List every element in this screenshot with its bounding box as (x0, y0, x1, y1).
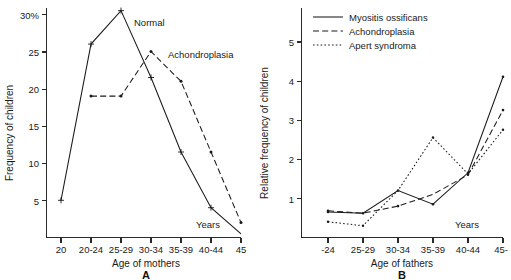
panel-a-xtick-2: 25-29 (109, 244, 133, 255)
panel-b-ytick-3: 3 (289, 115, 294, 126)
two-panel-line-chart: Frequency of children 30% 25 20 15 10 5 (0, 0, 511, 280)
panel-a-series-achondroplasia-markers (90, 50, 243, 224)
panel-b-y-tick-labels: 5 4 3 2 1 (289, 37, 294, 205)
legend-label-achondroplasia: Achondroplasia (349, 26, 415, 37)
panel-a-label: A (142, 269, 150, 280)
panel-b-series-achondroplasia-markers (327, 109, 505, 212)
panel-b-xtick-2: 30-34 (386, 244, 410, 255)
panel-a-ytick-20: 20 (28, 84, 39, 95)
legend-item-achondroplasia: Achondroplasia (313, 26, 415, 37)
panel-a-ytick-30: 30% (20, 10, 40, 21)
panel-b-series-apert (328, 130, 503, 226)
panel-b-ytick-4: 4 (289, 76, 294, 87)
panel-b-label: B (398, 269, 406, 280)
panel-b-xtick-1: 25-29 (351, 244, 375, 255)
panel-b-xtick-3: 35-39 (421, 244, 445, 255)
panel-b-series-apert-markers (327, 129, 504, 227)
legend-label-myositis: Myositis ossificans (349, 12, 428, 23)
panel-b-x-axis-label: Age of fathers (371, 258, 433, 269)
panel-b-ytick-5: 5 (289, 37, 294, 48)
panel-b-x-tick-labels: -24 25-29 30-34 35-39 40-44 45- (321, 244, 508, 255)
panel-a-ytick-25: 25 (28, 47, 39, 58)
panel-a-xtick-6: 45 (236, 244, 247, 255)
panel-b-xtick-5: 45- (494, 244, 508, 255)
panel-a-xtick-4: 35-39 (169, 244, 193, 255)
panel-a-y-ticks (42, 15, 47, 201)
panel-b-legend: Myositis ossificans Achondroplasia Apert… (313, 12, 428, 51)
panel-b-xtick-0: -24 (321, 244, 335, 255)
legend-item-apert: Apert syndroma (313, 40, 417, 51)
panel-b-ytick-2: 2 (289, 154, 294, 165)
panel-a-series-normal-markers (58, 8, 214, 211)
panel-a-xtick-1: 20-24 (79, 244, 103, 255)
panel-a-annotation-achondroplasia: Achondroplasia (168, 49, 234, 60)
panel-a-y-axis-label: Frequency of children (4, 85, 15, 181)
legend-label-apert: Apert syndroma (349, 40, 417, 51)
panel-a-x-axis-label: Age of mothers (112, 258, 180, 269)
panel-a-xtick-5: 40-44 (199, 244, 223, 255)
panel-a-ytick-10: 10 (28, 158, 39, 169)
panel-a-xtick-0: 20 (56, 244, 67, 255)
panel-b-y-ticks (297, 42, 302, 199)
panel-a-xtick-3: 30-34 (139, 244, 163, 255)
panel-a-y-tick-labels: 30% 25 20 15 10 5 (20, 10, 40, 207)
panel-b-xtick-4: 40-44 (456, 244, 480, 255)
panel-a-ytick-15: 15 (28, 121, 39, 132)
panel-b-y-axis-label: Relative frequency of children (259, 67, 270, 199)
panel-b-series-myositis (328, 77, 503, 213)
panel-a-years-note: Years (196, 219, 220, 230)
legend-item-myositis: Myositis ossificans (313, 12, 428, 23)
panel-a-annotation-normal: Normal (134, 17, 165, 28)
panel-b-x-ticks (328, 238, 503, 243)
panel-a: Frequency of children 30% 25 20 15 10 5 (4, 8, 246, 280)
panel-a-x-tick-labels: 20 20-24 25-29 30-34 35-39 40-44 45 (56, 244, 247, 255)
panel-b-ytick-1: 1 (289, 194, 294, 205)
panel-a-x-ticks (61, 238, 241, 243)
figure-container: Frequency of children 30% 25 20 15 10 5 (0, 0, 511, 280)
panel-a-ytick-5: 5 (34, 196, 39, 207)
panel-b: Relative frequency of children 5 4 3 2 1 (259, 8, 508, 280)
panel-a-series-achondroplasia (91, 52, 241, 223)
panel-b-years-note: Years (455, 219, 479, 230)
